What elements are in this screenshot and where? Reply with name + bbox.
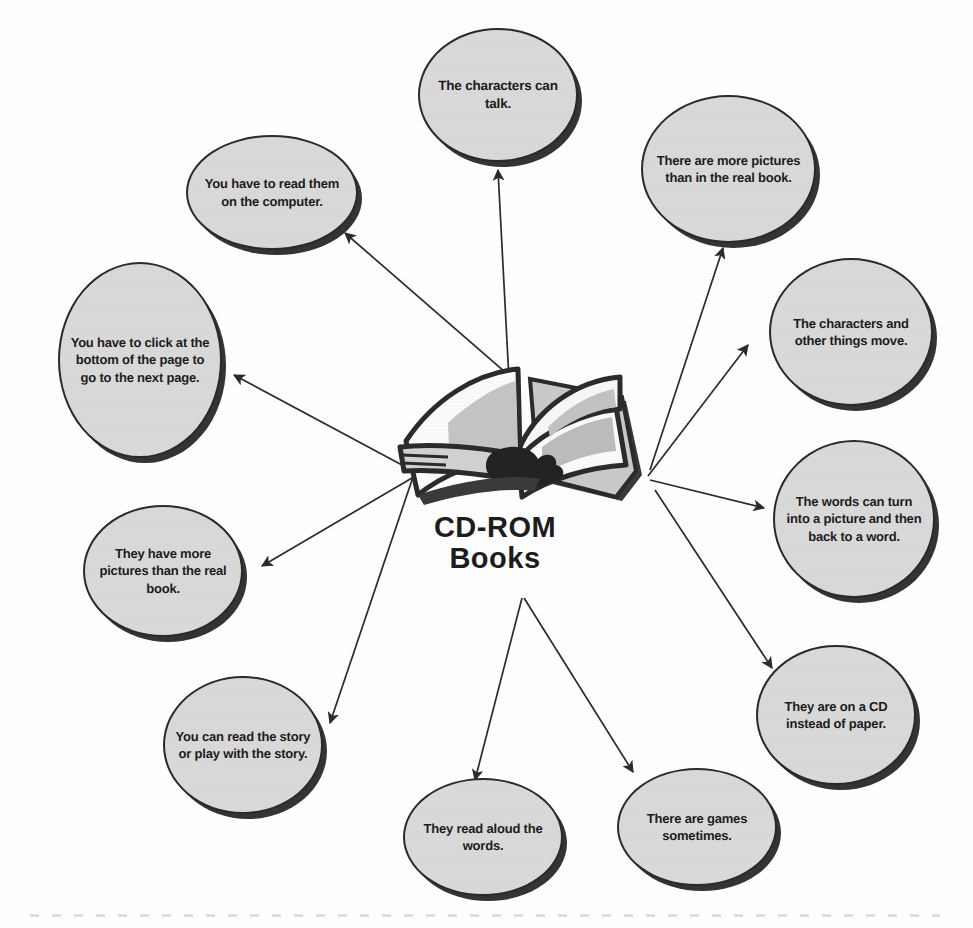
idea-bubble-words-turn-into-picture[interactable]: The words can turn into a picture and th… [773,440,935,598]
idea-bubble-characters-and-things-move[interactable]: The characters and other things move. [769,258,933,406]
concept-map-canvas: CD-ROM Books The characters can talk.The… [0,0,973,928]
scan-artifact-line [30,914,940,917]
connector-arrow-to-read-aloud-the-words [475,598,522,780]
idea-bubble-label: The characters and other things move. [781,315,921,349]
connector-arrow-to-more-pictures-than-real-book [650,248,723,470]
idea-bubble-label: You have to click at the bottom of the p… [70,334,210,385]
open-book-icon [390,355,650,515]
idea-bubble-on-a-cd-instead-of-paper[interactable]: They are on a CD instead of paper. [756,645,916,785]
idea-bubble-label: The words can turn into a picture and th… [785,493,923,544]
connector-arrow-to-characters-and-things-move [648,345,748,476]
idea-bubble-label: There are games sometimes. [629,810,765,844]
idea-bubble-label: You have to read them on the computer. [198,175,346,209]
idea-bubble-label: They are on a CD instead of paper. [768,698,904,732]
idea-bubble-label: You can read the story or play with the … [175,728,311,762]
idea-bubble-games-sometimes[interactable]: There are games sometimes. [617,768,777,886]
idea-bubble-click-bottom-of-page[interactable]: You have to click at the bottom of the p… [58,262,222,458]
idea-bubble-they-have-more-pictures[interactable]: They have more pictures than the real bo… [83,505,243,637]
idea-bubble-characters-can-talk[interactable]: The characters can talk. [418,28,578,162]
idea-bubble-read-them-on-computer[interactable]: You have to read them on the computer. [186,135,358,250]
connector-arrow-to-characters-can-talk [498,170,509,380]
idea-bubble-more-pictures-than-real-book[interactable]: There are more pictures than in the real… [641,95,816,243]
center-label: CD-ROM Books [395,512,595,573]
idea-bubble-label: They read aloud the words. [415,820,551,854]
connector-arrow-to-on-a-cd-instead-of-paper [655,490,772,668]
idea-bubble-label: The characters can talk. [430,77,566,113]
idea-bubble-read-or-play-with-story[interactable]: You can read the story or play with the … [163,676,323,814]
connector-arrow-to-words-turn-into-picture [650,480,764,508]
idea-bubble-label: They have more pictures than the real bo… [95,545,231,596]
idea-bubble-label: There are more pictures than in the real… [653,152,804,186]
connector-arrow-to-games-sometimes [524,598,633,772]
idea-bubble-read-aloud-the-words[interactable]: They read aloud the words. [403,778,563,896]
